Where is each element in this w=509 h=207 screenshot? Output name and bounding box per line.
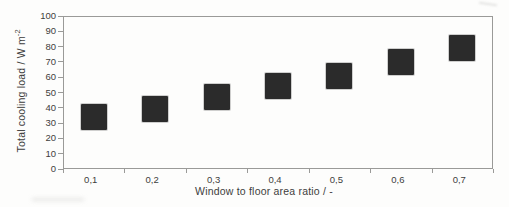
y-tick-mark [58, 61, 63, 62]
y-tick-mark [58, 138, 63, 139]
y-axis-title-superscript: -2 [13, 29, 22, 36]
data-point-marker [142, 96, 168, 122]
scan-artifact [32, 198, 84, 201]
x-tick-mark [493, 169, 494, 173]
data-point-marker [388, 49, 414, 75]
x-tick-mark [370, 169, 371, 173]
y-tick-label: 70 [32, 57, 56, 67]
y-tick-label: 10 [32, 149, 56, 159]
x-tick-label: 0,6 [381, 174, 415, 185]
data-point-marker [326, 63, 352, 89]
y-tick-mark [58, 123, 63, 124]
x-tick-mark [247, 169, 248, 173]
y-tick-mark [58, 107, 63, 108]
data-point-marker [81, 104, 107, 130]
y-axis-title-text: Total cooling load / W m [15, 36, 27, 152]
data-point-marker [204, 84, 230, 110]
y-tick-label: 30 [32, 118, 56, 128]
x-tick-label: 0,3 [197, 174, 231, 185]
x-tick-mark [186, 169, 187, 173]
y-axis-title: Total cooling load / W m-2 [13, 6, 27, 176]
y-tick-label: 50 [32, 88, 56, 98]
x-tick-label: 0,4 [258, 174, 292, 185]
x-tick-mark [432, 169, 433, 173]
y-tick-mark [58, 92, 63, 93]
y-tick-label: 80 [32, 42, 56, 52]
y-tick-mark [58, 46, 63, 47]
y-tick-label: 100 [32, 11, 56, 21]
x-axis-title: Window to floor area ratio / - [49, 185, 479, 197]
x-tick-label: 0,2 [135, 174, 169, 185]
x-tick-label: 0,5 [319, 174, 353, 185]
y-tick-mark [58, 77, 63, 78]
y-tick-label: 0 [32, 164, 56, 174]
scan-artifact [479, 2, 497, 6]
x-tick-mark [124, 169, 125, 173]
y-tick-mark [58, 153, 63, 154]
x-tick-label: 0,1 [74, 174, 108, 185]
y-tick-mark [58, 16, 63, 17]
y-tick-label: 90 [32, 26, 56, 36]
data-point-marker [265, 73, 291, 99]
cooling-load-chart-figure: Total cooling load / W m-2 0102030405060… [0, 0, 509, 207]
y-tick-label: 20 [32, 133, 56, 143]
x-tick-mark [309, 169, 310, 173]
y-tick-mark [58, 31, 63, 32]
y-tick-label: 40 [32, 103, 56, 113]
x-tick-label: 0,7 [442, 174, 476, 185]
y-tick-label: 60 [32, 72, 56, 82]
data-point-marker [449, 35, 475, 61]
x-tick-mark [63, 169, 64, 173]
